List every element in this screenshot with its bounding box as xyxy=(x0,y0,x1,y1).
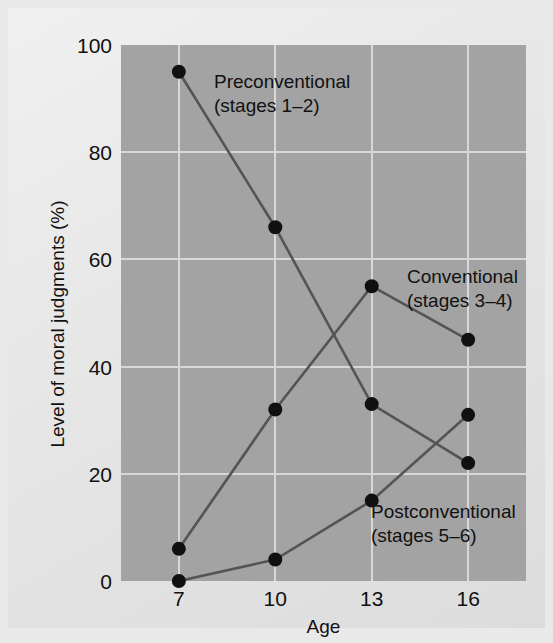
figure-canvas: 020406080100 7101316 Age Level of moral … xyxy=(0,0,553,643)
series-annotation: Conventional(stages 3–4) xyxy=(407,265,518,313)
y-axis-title: Level of moral judgments (%) xyxy=(47,144,69,504)
series-annotation-title: Conventional xyxy=(407,266,518,287)
data-point-marker xyxy=(172,65,186,79)
series-annotation-subtitle: (stages 3–4) xyxy=(407,289,518,313)
x-tick-label: 7 xyxy=(149,588,209,609)
data-point-marker xyxy=(172,542,186,556)
data-point-marker xyxy=(268,220,282,234)
x-tick-label: 10 xyxy=(245,588,305,609)
data-point-marker xyxy=(365,279,379,293)
figure-inner-panel: 020406080100 7101316 Age Level of moral … xyxy=(8,8,545,628)
x-tick-label: 13 xyxy=(342,588,402,609)
series-annotation-title: Postconventional xyxy=(371,501,516,522)
series-annotation-title: Preconventional xyxy=(214,71,350,92)
y-tick-label: 0 xyxy=(8,571,112,592)
data-point-marker xyxy=(461,408,475,422)
data-point-marker xyxy=(268,553,282,567)
data-point-marker xyxy=(268,402,282,416)
series-annotation-subtitle: (stages 1–2) xyxy=(214,94,350,118)
x-tick-label: 16 xyxy=(438,588,498,609)
series-annotation: Preconventional(stages 1–2) xyxy=(214,70,350,118)
data-point-marker xyxy=(461,333,475,347)
series-annotation-subtitle: (stages 5–6) xyxy=(371,524,516,548)
y-tick-label: 100 xyxy=(8,35,112,56)
data-point-marker xyxy=(365,397,379,411)
series-line xyxy=(179,415,468,581)
data-point-marker xyxy=(461,456,475,470)
x-axis-title: Age xyxy=(121,616,526,638)
series-annotation: Postconventional(stages 5–6) xyxy=(371,500,516,548)
data-point-marker xyxy=(172,574,186,588)
